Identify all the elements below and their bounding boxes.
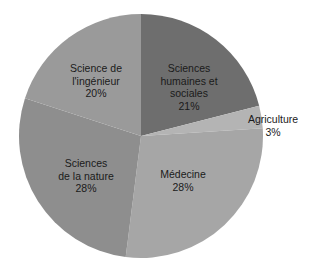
label-line: Sciences [58, 157, 113, 170]
label-line: Agriculture [248, 113, 298, 126]
label-ingenieur: Science de l'ingénieur 20% [70, 62, 122, 100]
label-line: Médecine [160, 168, 206, 181]
pie-slice-m-decine [126, 128, 263, 258]
label-percent: 21% [160, 100, 217, 113]
label-line: l'ingénieur [70, 75, 122, 88]
label-percent: 3% [248, 126, 298, 139]
label-agriculture: Agriculture 3% [248, 113, 298, 138]
label-line: sociales [160, 87, 217, 100]
label-line: humaines et [160, 75, 217, 88]
label-line: Sciences [160, 62, 217, 75]
label-line: Science de [70, 62, 122, 75]
label-line: de la nature [58, 170, 113, 183]
label-medecine: Médecine 28% [160, 168, 206, 193]
label-sciences-nature: Sciences de la nature 28% [58, 157, 113, 195]
label-percent: 28% [160, 181, 206, 194]
label-percent: 28% [58, 182, 113, 195]
label-percent: 20% [70, 87, 122, 100]
pie-slices [19, 14, 263, 258]
label-sciences-humaines: Sciences humaines et sociales 21% [160, 62, 217, 112]
